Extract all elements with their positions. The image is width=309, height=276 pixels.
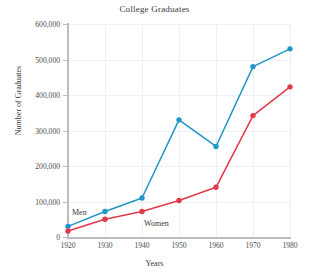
chart-container: College Graduates Number of Graduates Ye… [0, 0, 309, 276]
data-point-men [287, 46, 292, 51]
data-point-men [102, 209, 107, 214]
data-point-women [250, 113, 255, 118]
series-label-women: Women [144, 219, 169, 228]
data-point-women [139, 209, 144, 214]
data-point-women [287, 84, 292, 89]
data-point-men [176, 117, 181, 122]
data-point-women [65, 228, 70, 233]
series-line-women [68, 87, 290, 231]
data-point-women [176, 198, 181, 203]
data-point-men [139, 195, 144, 200]
data-point-women [102, 217, 107, 222]
series-layer [0, 0, 309, 276]
data-point-men [250, 64, 255, 69]
series-label-men: Men [72, 208, 87, 217]
data-point-women [213, 185, 218, 190]
data-point-men [213, 144, 218, 149]
data-point-men [65, 224, 70, 229]
